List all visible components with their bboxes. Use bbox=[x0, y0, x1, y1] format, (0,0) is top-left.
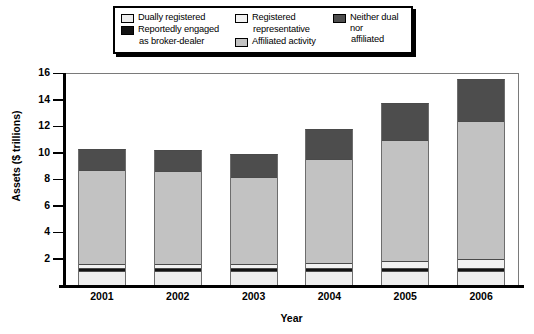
legend-column-1: Dually registered Reportedly engaged as … bbox=[121, 12, 233, 47]
x-tick-label-2006: 2006 bbox=[451, 290, 511, 302]
x-axis-title: Year bbox=[64, 312, 519, 324]
legend-item-dually-registered: Dually registered bbox=[121, 12, 233, 23]
legend-swatch-neither-dual-nor-affiliated bbox=[333, 14, 346, 23]
x-tick-label-2002: 2002 bbox=[148, 290, 208, 302]
legend-label-reportedly-engaged: Reportedly engaged bbox=[138, 24, 219, 35]
legend-label-registered-representative: Registered bbox=[252, 12, 295, 23]
x-tick-label-2004: 2004 bbox=[299, 290, 359, 302]
x-tick-label-2003: 2003 bbox=[224, 290, 284, 302]
chart-container: Dually registered Reportedly engaged as … bbox=[0, 0, 534, 334]
y-axis-title: Assets ($ trillions) bbox=[10, 96, 22, 216]
x-tick-label-2005: 2005 bbox=[375, 290, 435, 302]
x-tick-label-2001: 2001 bbox=[72, 290, 132, 302]
chart-legend: Dually registered Reportedly engaged as … bbox=[113, 6, 413, 54]
legend-label-affiliated-activity: Affiliated activity bbox=[252, 36, 316, 47]
legend-item-registered-representative: Registered bbox=[235, 12, 335, 23]
legend-item-neither-dual-nor-affiliated: Neither dual nor bbox=[333, 12, 413, 33]
legend-column-3: Neither dual nor affiliated bbox=[333, 12, 413, 45]
legend-swatch-dually-registered bbox=[121, 14, 134, 23]
legend-label-dually-registered: Dually registered bbox=[138, 12, 205, 23]
legend-swatch-registered-representative bbox=[235, 14, 248, 23]
legend-swatch-affiliated-activity bbox=[235, 38, 248, 47]
legend-column-2: Registered representative Affiliated act… bbox=[235, 12, 335, 48]
legend-item-reportedly-engaged: Reportedly engaged bbox=[121, 24, 233, 35]
legend-label-registered-representative-line2: representative bbox=[253, 24, 335, 35]
legend-label-neither-dual-nor-affiliated: Neither dual nor bbox=[350, 12, 413, 33]
legend-label-reportedly-engaged-line2: as broker-dealer bbox=[139, 36, 233, 47]
legend-label-neither-dual-nor-affiliated-line2: affiliated bbox=[351, 34, 413, 45]
legend-swatch-reportedly-engaged bbox=[121, 26, 134, 35]
legend-item-affiliated-activity: Affiliated activity bbox=[235, 36, 335, 47]
